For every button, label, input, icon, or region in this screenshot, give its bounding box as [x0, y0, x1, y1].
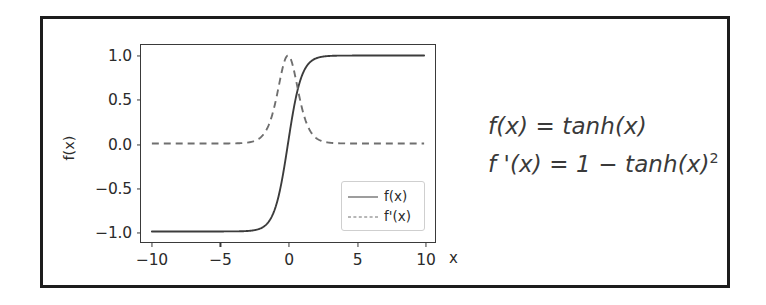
figure-root: f(x) 1.00.50.0−0.5−1.0 −10−50510 x f(x) … [0, 0, 766, 305]
x-tick-label: −5 [209, 251, 231, 269]
y-tick-mark [137, 100, 142, 101]
legend-line-solid-icon [348, 193, 378, 202]
legend-item: f(x) [348, 187, 418, 207]
curve-f-prime-of-x [152, 56, 424, 144]
legend-item: f'(x) [348, 207, 418, 227]
y-tick-label: 1.0 [108, 47, 132, 65]
equation-rhs: 1 − tanh(x) [576, 151, 709, 177]
x-axis-label: x [449, 249, 458, 267]
chart-matplotlib-figure: f(x) 1.00.50.0−0.5−1.0 −10−50510 x f(x) … [48, 28, 458, 268]
x-tick-label: 5 [353, 251, 363, 269]
equation-lhs: f(x) [488, 113, 528, 139]
x-tick-mark [288, 242, 289, 247]
equation-function: f(x) = tanh(x) [488, 108, 718, 146]
y-axis-label: f(x) [61, 136, 77, 161]
y-tick-mark [137, 233, 142, 234]
y-tick-label: −0.5 [95, 180, 132, 198]
equation-rhs: tanh(x) [562, 113, 647, 139]
y-tick-label: 0.0 [108, 136, 132, 154]
y-tick-label: 0.5 [108, 91, 132, 109]
y-tick-mark [137, 188, 142, 189]
y-tick-label: −1.0 [95, 224, 132, 242]
y-tick-mark [137, 55, 142, 56]
equation-lhs: f '(x) [488, 151, 542, 177]
legend-item-label: f(x) [384, 190, 407, 204]
x-tick-mark [151, 242, 152, 247]
legend-item-label: f'(x) [384, 210, 411, 224]
equation-equals: = [549, 151, 568, 177]
x-tick-label: 0 [284, 251, 294, 269]
equation-block: f(x) = tanh(x) f '(x) = 1 − tanh(x)2 [488, 108, 718, 184]
equation-derivative: f '(x) = 1 − tanh(x)2 [488, 146, 718, 184]
y-tick-mark [137, 144, 142, 145]
x-tick-label: 10 [416, 251, 435, 269]
equation-exponent: 2 [710, 150, 719, 166]
legend-line-dashed-icon [348, 213, 378, 222]
x-tick-label: −10 [136, 251, 168, 269]
chart-legend: f(x) f'(x) [341, 181, 425, 231]
x-tick-mark [357, 242, 358, 247]
x-tick-mark [425, 242, 426, 247]
equation-equals: = [535, 113, 554, 139]
x-tick-mark [220, 242, 221, 247]
